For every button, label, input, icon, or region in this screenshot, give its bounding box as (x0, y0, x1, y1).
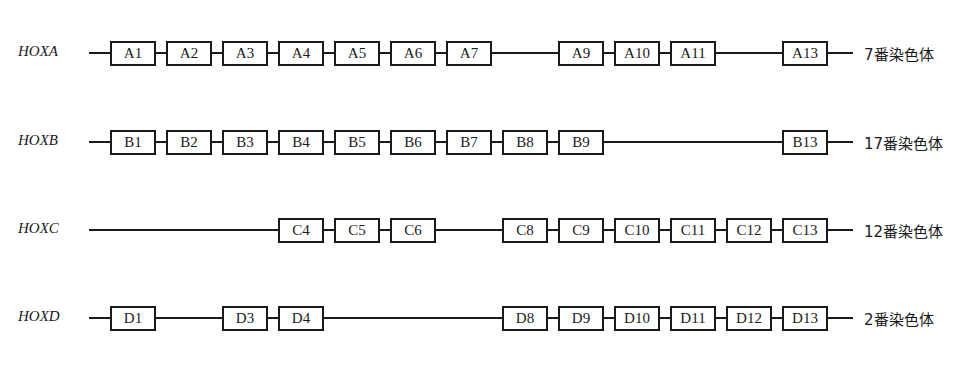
gene-box: D11 (670, 306, 716, 331)
hox-row-hoxb: HOXBB1B2B3B4B5B6B7B8B9B1317番染色体 (0, 127, 977, 157)
gene-box: A5 (334, 41, 380, 66)
gene-box: A7 (446, 41, 492, 66)
gene-box: D8 (502, 306, 548, 331)
gene-box: B6 (390, 130, 436, 155)
cluster-name: HOXC (18, 220, 59, 237)
gene-box: C9 (558, 218, 604, 243)
gene-box: C5 (334, 218, 380, 243)
gene-box: C8 (502, 218, 548, 243)
gene-box: C13 (782, 218, 828, 243)
gene-box: B4 (278, 130, 324, 155)
gene-box: D12 (726, 306, 772, 331)
gene-box: A10 (614, 41, 660, 66)
gene-box: C12 (726, 218, 772, 243)
gene-box: B8 (502, 130, 548, 155)
gene-box: A1 (110, 41, 156, 66)
gene-box: B5 (334, 130, 380, 155)
gene-box: D10 (614, 306, 660, 331)
gene-box: D13 (782, 306, 828, 331)
gene-box: C10 (614, 218, 660, 243)
gene-box: D4 (278, 306, 324, 331)
gene-box: A13 (782, 41, 828, 66)
chromosome-label: 2番染色体 (864, 308, 934, 329)
hox-row-hoxc: HOXCC4C5C6C8C9C10C11C12C1312番染色体 (0, 215, 977, 245)
gene-box: C4 (278, 218, 324, 243)
gene-box: D3 (222, 306, 268, 331)
hox-row-hoxa: HOXAA1A2A3A4A5A6A7A9A10A11A137番染色体 (0, 38, 977, 68)
gene-box: B9 (558, 130, 604, 155)
gene-box: B2 (166, 130, 212, 155)
gene-box: A4 (278, 41, 324, 66)
gene-box: B3 (222, 130, 268, 155)
chromosome-label: 17番染色体 (864, 132, 943, 153)
chromosome-label: 7番染色体 (864, 43, 934, 64)
cluster-name: HOXD (18, 308, 60, 325)
cluster-name: HOXB (18, 132, 58, 149)
gene-box: A11 (670, 41, 716, 66)
gene-box: C6 (390, 218, 436, 243)
gene-box: C11 (670, 218, 716, 243)
gene-box: A2 (166, 41, 212, 66)
gene-box: A9 (558, 41, 604, 66)
gene-box: A3 (222, 41, 268, 66)
gene-box: A6 (390, 41, 436, 66)
gene-box: B13 (782, 130, 828, 155)
gene-box: D1 (110, 306, 156, 331)
cluster-name: HOXA (18, 43, 58, 60)
chromosome-label: 12番染色体 (864, 220, 943, 241)
hox-row-hoxd: HOXDD1D3D4D8D9D10D11D12D132番染色体 (0, 303, 977, 333)
gene-box: B1 (110, 130, 156, 155)
gene-box: D9 (558, 306, 604, 331)
gene-box: B7 (446, 130, 492, 155)
